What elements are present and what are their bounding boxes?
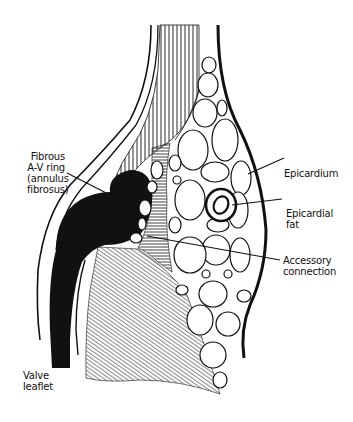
- label-annulus-line1: Fibrous: [27, 151, 65, 162]
- label-epicardium: Epicardium: [284, 168, 338, 179]
- label-fat-line2: fat: [286, 219, 333, 230]
- label-fat-line1: Epicardial: [286, 208, 333, 219]
- label-valve-leaflet: Valve leaflet: [23, 370, 53, 392]
- label-annulus-line3: (annulus: [27, 173, 65, 184]
- label-accessory-line2: connection: [283, 266, 336, 277]
- label-valve-line2: leaflet: [23, 381, 53, 392]
- coronary-vessel: [206, 189, 236, 221]
- label-epicardium-text: Epicardium: [284, 168, 338, 179]
- label-annulus-line4: fibrosus): [27, 184, 65, 195]
- label-epicardial-fat: Epicardial fat: [286, 208, 333, 230]
- label-accessory-line1: Accessory: [283, 255, 336, 266]
- label-accessory-connection: Accessory connection: [283, 255, 336, 277]
- label-valve-line1: Valve: [23, 370, 53, 381]
- label-annulus: Fibrous A-V ring (annulus fibrosus): [27, 151, 65, 195]
- label-annulus-line2: A-V ring: [27, 162, 65, 173]
